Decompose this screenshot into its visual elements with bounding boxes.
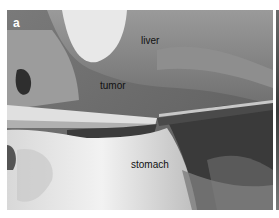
stomach-label: stomach — [131, 160, 169, 170]
surgical-photo-panel: a liver tumor stomach — [7, 10, 273, 210]
adjacent-panel-edge — [276, 10, 279, 210]
surgical-scene-image — [7, 10, 273, 210]
panel-letter-label: a — [13, 17, 20, 29]
tumor-label: tumor — [100, 81, 126, 91]
liver-label: liver — [141, 36, 159, 46]
